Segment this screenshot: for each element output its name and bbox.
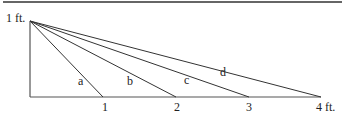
- hypotenuse-a: [30, 21, 103, 97]
- segment-label-a: a: [78, 75, 83, 87]
- triangle-diagram: [0, 0, 350, 116]
- height-label: 1 ft.: [6, 12, 25, 24]
- base-label-4: 4 ft.: [316, 101, 335, 113]
- base-label-3: 3: [246, 101, 252, 113]
- base-label-2: 2: [174, 101, 180, 113]
- base-label-1: 1: [102, 101, 108, 113]
- segment-label-c: c: [184, 74, 189, 86]
- hypotenuse-d: [30, 21, 321, 97]
- segment-label-d: d: [220, 66, 226, 78]
- hypotenuse-c: [30, 21, 249, 97]
- hypotenuse-b: [30, 21, 176, 97]
- segment-label-b: b: [127, 75, 133, 87]
